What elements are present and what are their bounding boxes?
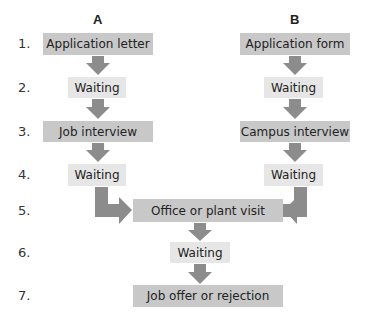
arrow-elbow-left-icon — [283, 187, 307, 224]
step-7-job-offer-or-rejection: Job offer or rejection — [133, 285, 283, 307]
arrow-down-icon — [188, 264, 212, 284]
step-b3-campus-interview: Campus interview — [240, 121, 350, 142]
arrow-down-icon — [86, 99, 110, 119]
step-a2-waiting: Waiting — [68, 77, 126, 98]
step-b4-waiting: Waiting — [264, 164, 323, 186]
step-b1-application-form: Application form — [240, 33, 350, 55]
step-a1-application-letter: Application letter — [43, 33, 153, 55]
step-a4-waiting: Waiting — [68, 164, 126, 186]
arrow-down-icon — [86, 56, 110, 75]
step-6-waiting: Waiting — [170, 242, 230, 263]
arrow-down-icon — [283, 99, 307, 119]
arrow-elbow-right-icon — [95, 187, 132, 224]
step-b2-waiting: Waiting — [264, 77, 323, 98]
arrow-down-icon — [283, 143, 307, 162]
arrow-down-icon — [283, 56, 307, 75]
step-a3-job-interview: Job interview — [43, 121, 153, 142]
step-5-office-or-plant-visit: Office or plant visit — [133, 199, 283, 222]
arrow-down-icon — [86, 143, 110, 162]
arrow-down-icon — [188, 223, 212, 241]
